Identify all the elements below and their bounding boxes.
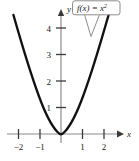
y-tick-label-3: 3 bbox=[47, 50, 52, 60]
x-tick-label-2: 2 bbox=[102, 142, 107, 152]
parabola-figure: −2 −1 1 2 1 2 3 4 x y f(x) = x2 bbox=[0, 0, 139, 161]
graph-canvas: −2 −1 1 2 1 2 3 4 x y f(x) = x2 bbox=[0, 0, 139, 161]
y-tick-label-2: 2 bbox=[47, 77, 52, 87]
callout-leader-line bbox=[85, 15, 100, 37]
callout-text-exponent: 2 bbox=[104, 3, 107, 9]
x-tick-label--1: −1 bbox=[35, 142, 45, 152]
y-tick-label-4: 4 bbox=[47, 24, 52, 34]
callout-function-text: f(x) = x2 bbox=[77, 3, 107, 14]
y-axis-label: y bbox=[66, 4, 71, 14]
y-axis bbox=[58, 9, 64, 143]
y-tick-label-1: 1 bbox=[47, 103, 52, 113]
x-tick-label--2: −2 bbox=[14, 142, 24, 152]
callout-text-base: f(x) = x bbox=[77, 3, 104, 13]
x-tick-label-1: 1 bbox=[80, 142, 85, 152]
x-axis-label: x bbox=[126, 129, 131, 139]
